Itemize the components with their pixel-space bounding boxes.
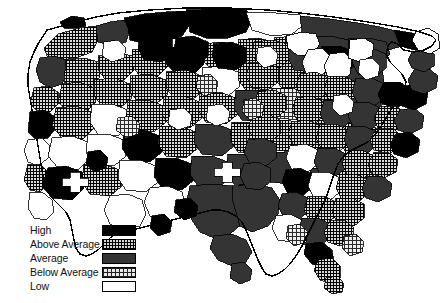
legend-label-above-average: Above Average bbox=[30, 239, 102, 250]
legend-label-average: Average bbox=[30, 253, 102, 264]
county-region bbox=[212, 42, 246, 70]
legend-swatch-below-average bbox=[102, 267, 136, 278]
legend-label-below-average: Below Average bbox=[30, 267, 102, 278]
legend-item-above-average: Above Average bbox=[30, 237, 142, 251]
legend-swatch-average bbox=[102, 253, 136, 264]
county-region bbox=[286, 144, 318, 172]
legend-label-low: Low bbox=[30, 281, 102, 292]
county-region bbox=[244, 138, 276, 166]
legend-label-high: High bbox=[30, 225, 102, 236]
legend-item-below-average: Below Average bbox=[30, 265, 142, 279]
county-region bbox=[158, 126, 198, 158]
county-region bbox=[174, 36, 208, 64]
legend-swatch-above-average bbox=[102, 239, 136, 250]
map-figure: High Above Average Average Below Average… bbox=[0, 0, 447, 303]
county-region bbox=[282, 168, 312, 196]
county-region bbox=[194, 124, 234, 156]
county-region bbox=[288, 120, 320, 148]
county-region bbox=[138, 34, 172, 62]
county-region bbox=[186, 9, 252, 38]
county-region bbox=[240, 162, 270, 190]
legend-item-average: Average bbox=[30, 251, 142, 265]
map-legend: High Above Average Average Below Average… bbox=[30, 223, 142, 293]
legend-swatch-high bbox=[102, 225, 136, 236]
county-region bbox=[154, 158, 194, 190]
county-region bbox=[118, 160, 158, 192]
legend-swatch-low bbox=[102, 281, 136, 292]
county-region bbox=[30, 86, 58, 112]
legend-item-low: Low bbox=[30, 279, 142, 293]
legend-item-high: High bbox=[30, 223, 142, 237]
